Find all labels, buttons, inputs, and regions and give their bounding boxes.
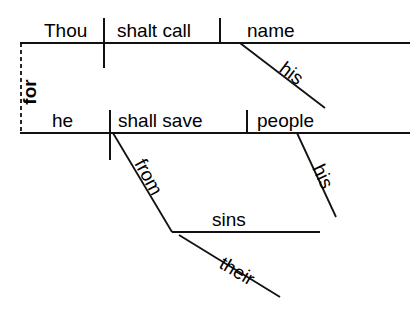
word-modifier-their-sins: their xyxy=(216,252,259,289)
prepositional-phrase-from-their-sins: from sins their xyxy=(113,133,320,297)
word-object-people: people xyxy=(257,110,314,131)
clause-bottom: he shall save people his xyxy=(20,110,410,217)
sentence-diagram-canvas: Thou shalt call name his for he shall sa… xyxy=(0,0,416,318)
word-object-sins: sins xyxy=(212,209,246,230)
word-subject-thou: Thou xyxy=(44,20,87,41)
conjunction-group-for: for xyxy=(19,43,40,133)
word-conjunction-for: for xyxy=(19,79,40,105)
word-verb-shall-save: shall save xyxy=(118,110,203,131)
sentence-diagram: Thou shalt call name his for he shall sa… xyxy=(0,0,416,318)
word-modifier-his-name: his xyxy=(276,57,308,88)
word-subject-he: he xyxy=(52,110,73,131)
clause-top: Thou shalt call name his xyxy=(20,18,410,108)
word-object-name: name xyxy=(247,20,295,41)
word-verb-shalt-call: shalt call xyxy=(117,20,191,41)
word-preposition-from: from xyxy=(131,155,167,198)
